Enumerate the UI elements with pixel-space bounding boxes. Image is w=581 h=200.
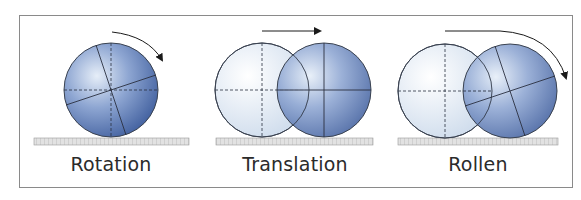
rollen-label: Rollen <box>398 153 558 175</box>
ground-surface <box>34 138 189 145</box>
rollen-panel <box>398 31 566 145</box>
translation-label: Translation <box>215 153 375 175</box>
ground-surface <box>398 138 558 145</box>
ground-surface <box>216 138 373 145</box>
rotation-panel <box>34 32 189 145</box>
translation-panel <box>215 31 373 145</box>
rotation-label: Rotation <box>31 153 191 175</box>
